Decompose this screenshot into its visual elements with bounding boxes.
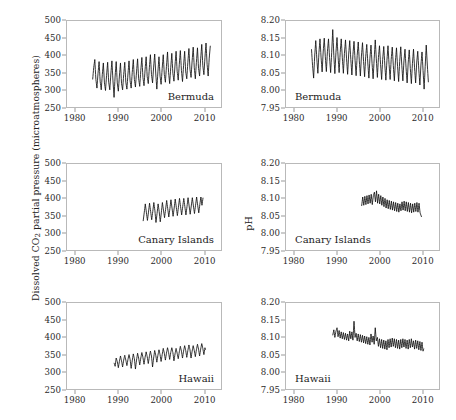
data-series-line — [114, 344, 206, 369]
x-tick-mark — [161, 251, 162, 255]
data-series-line — [333, 321, 424, 351]
site-label: Canary Islands — [295, 234, 371, 245]
x-tick-mark — [422, 251, 423, 255]
x-tick-mark — [74, 108, 75, 112]
data-series-line — [93, 43, 211, 97]
y-tick-mark — [62, 233, 66, 234]
y-tick-mark — [281, 20, 285, 21]
data-series-line — [311, 30, 428, 90]
figure-panel-grid: Dissolved CO2 partial pressure (microatm… — [0, 0, 456, 420]
x-tick-mark — [161, 390, 162, 394]
y-tick-mark — [281, 302, 285, 303]
x-tick-mark — [161, 108, 162, 112]
y-tick-mark — [281, 180, 285, 181]
y-tick-mark — [62, 90, 66, 91]
x-tick-mark — [118, 108, 119, 112]
chart-panel-middle-left: Canary Islands25030035040045050019801990… — [66, 163, 222, 251]
plot-frame: Hawaii — [285, 302, 440, 390]
x-tick-mark — [379, 251, 380, 255]
y-tick-mark — [62, 354, 66, 355]
x-tick-mark — [74, 390, 75, 394]
x-tick-mark — [293, 390, 294, 394]
x-tick-mark — [379, 108, 380, 112]
chart-panel-bottom-left: Hawaii2503003504004505001980199020002010 — [66, 302, 222, 390]
y-tick-mark — [62, 198, 66, 199]
y-tick-mark — [62, 20, 66, 21]
x-tick-mark — [293, 108, 294, 112]
x-tick-mark — [336, 108, 337, 112]
y-tick-mark — [62, 215, 66, 216]
y-tick-mark — [281, 372, 285, 373]
y-tick-mark — [62, 72, 66, 73]
x-tick-mark — [293, 251, 294, 255]
y-tick-mark — [281, 90, 285, 91]
y-axis-label-pco2-sub: 2 — [34, 233, 42, 238]
plot-frame: Canary Islands — [66, 163, 222, 251]
data-series-line — [362, 191, 422, 217]
x-tick-mark — [204, 390, 205, 394]
y-axis-label-pco2: Dissolved CO2 partial pressure (microatm… — [30, 38, 42, 318]
y-tick-mark — [62, 37, 66, 38]
plot-frame: Bermuda — [285, 20, 440, 108]
y-axis-label-ph: pH — [243, 204, 254, 244]
y-tick-mark — [281, 319, 285, 320]
chart-panel-top-left: Bermuda250300350400450500198019902000201… — [66, 20, 222, 108]
chart-panel-bottom-right: Hawaii7.958.008.058.108.158.201980199020… — [285, 302, 440, 390]
y-tick-mark — [62, 372, 66, 373]
y-tick-mark — [281, 55, 285, 56]
y-tick-mark — [62, 319, 66, 320]
x-tick-mark — [204, 251, 205, 255]
site-label: Hawaii — [178, 373, 214, 384]
y-tick-mark — [62, 180, 66, 181]
chart-panel-middle-right: Canary Islands7.958.008.058.108.158.2019… — [285, 163, 440, 251]
x-tick-mark — [118, 390, 119, 394]
site-label: Bermuda — [168, 91, 214, 102]
x-tick-mark — [118, 251, 119, 255]
y-tick-mark — [281, 72, 285, 73]
y-tick-mark — [62, 55, 66, 56]
site-label: Bermuda — [295, 91, 341, 102]
site-label: Hawaii — [295, 373, 331, 384]
y-tick-mark — [62, 302, 66, 303]
y-axis-label-pco2-pre: Dissolved CO — [30, 238, 41, 301]
y-tick-mark — [281, 163, 285, 164]
x-tick-mark — [422, 390, 423, 394]
plot-frame: Canary Islands — [285, 163, 440, 251]
y-axis-label-pco2-post: partial pressure (microatmospheres) — [30, 55, 41, 233]
data-series-line — [143, 197, 203, 222]
x-tick-mark — [74, 251, 75, 255]
y-tick-mark — [281, 198, 285, 199]
y-tick-mark — [281, 215, 285, 216]
y-tick-mark — [62, 163, 66, 164]
x-tick-mark — [204, 108, 205, 112]
x-tick-mark — [336, 390, 337, 394]
x-tick-mark — [336, 251, 337, 255]
y-tick-mark — [281, 37, 285, 38]
site-label: Canary Islands — [138, 234, 214, 245]
x-tick-mark — [422, 108, 423, 112]
chart-panel-top-right: Bermuda7.958.008.058.108.158.20198019902… — [285, 20, 440, 108]
y-tick-mark — [62, 337, 66, 338]
y-tick-mark — [281, 233, 285, 234]
plot-frame: Hawaii — [66, 302, 222, 390]
y-tick-mark — [281, 337, 285, 338]
plot-frame: Bermuda — [66, 20, 222, 108]
x-tick-mark — [379, 390, 380, 394]
y-tick-mark — [281, 354, 285, 355]
